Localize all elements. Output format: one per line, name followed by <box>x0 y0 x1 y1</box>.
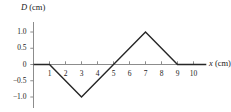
x-axis-title: x (cm) <box>209 59 231 68</box>
y-axis-title: D (cm) <box>21 3 45 12</box>
x-tick-label: 9 <box>171 70 185 78</box>
y-tick-label: 0 <box>7 61 27 69</box>
x-tick-label: 6 <box>123 70 137 78</box>
x-axis-unit: (cm) <box>215 58 231 68</box>
x-tick-label: 2 <box>59 70 73 78</box>
x-tick-label: 3 <box>75 70 89 78</box>
x-tick-label: 1 <box>43 70 57 78</box>
y-tick-label: 1.0 <box>7 28 27 36</box>
chart-figure: D (cm) x (cm) 1.00.50−0.5−1.0 1234567891… <box>0 0 231 112</box>
x-tick-label: 10 <box>187 70 201 78</box>
x-tick-label: 7 <box>139 70 153 78</box>
chart-plot-area <box>0 0 231 112</box>
y-tick-label: −1.0 <box>7 93 27 101</box>
y-tick-label: 0.5 <box>7 44 27 52</box>
x-tick-label: 8 <box>155 70 169 78</box>
y-axis-unit: (cm) <box>29 2 45 12</box>
y-tick-label: −0.5 <box>7 77 27 85</box>
x-tick-label: 4 <box>91 70 105 78</box>
x-tick-label: 5 <box>107 70 121 78</box>
